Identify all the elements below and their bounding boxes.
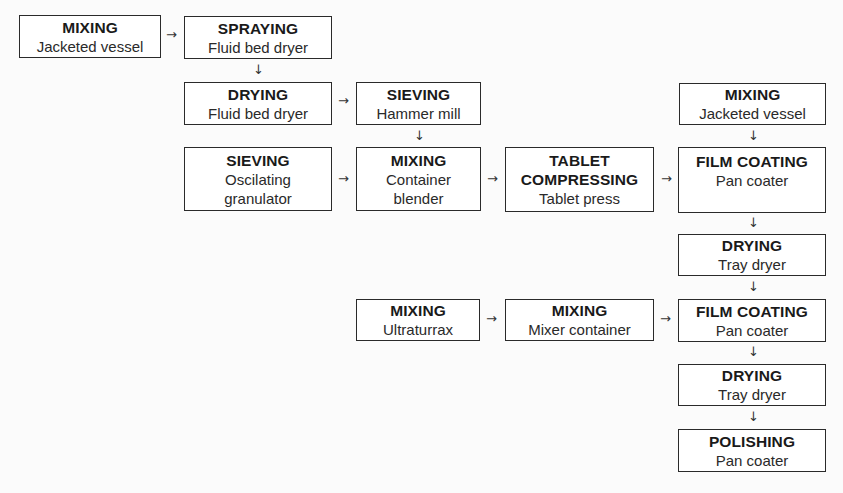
node-title: MIXING <box>62 18 118 37</box>
node-title: DRYING <box>228 85 288 104</box>
node-mixing-ultraturrax: MIXING Ultraturrax <box>356 299 480 341</box>
node-title: POLISHING <box>709 432 795 451</box>
arrow-down-icon: ↓ <box>748 280 759 293</box>
node-mixing-jacketed-vessel-coating: MIXING Jacketed vessel <box>679 83 826 125</box>
node-title: SIEVING <box>226 151 290 170</box>
arrow-right-icon: → <box>661 172 672 185</box>
node-mixing-mixer-container: MIXING Mixer container <box>505 299 654 341</box>
node-equipment: Pan coater <box>716 321 789 340</box>
node-title: MIXING <box>725 85 781 104</box>
arrow-right-icon: → <box>660 312 671 325</box>
node-equipment: Jacketed vessel <box>699 104 806 123</box>
arrow-down-icon: ↓ <box>748 345 759 358</box>
arrow-down-icon: ↓ <box>253 63 264 76</box>
node-equipment: Tray dryer <box>718 385 786 404</box>
node-title: DRYING <box>722 236 782 255</box>
node-sieving-oscilating-granulator: SIEVING Oscilating granulator <box>184 147 332 211</box>
node-equipment-line2: granulator <box>224 189 292 208</box>
arrow-down-icon: ↓ <box>748 129 759 142</box>
node-mixing-jacketed-vessel-start: MIXING Jacketed vessel <box>19 15 161 58</box>
node-equipment: Tablet press <box>539 189 620 208</box>
node-equipment: Pan coater <box>716 171 789 190</box>
node-title: MIXING <box>391 151 447 170</box>
node-equipment: Fluid bed dryer <box>208 104 308 123</box>
node-title: DRYING <box>722 366 782 385</box>
node-title: FILM COATING <box>696 152 808 171</box>
arrow-down-icon: ↓ <box>414 129 425 142</box>
node-spraying-fluid-bed-dryer: SPRAYING Fluid bed dryer <box>184 16 332 59</box>
node-film-coating-1: FILM COATING Pan coater <box>678 147 826 213</box>
node-title: MIXING <box>390 301 446 320</box>
node-equipment: Fluid bed dryer <box>208 38 308 57</box>
node-title-line1: TABLET <box>549 151 610 170</box>
node-equipment: Hammer mill <box>376 104 460 123</box>
node-drying-tray-dryer-1: DRYING Tray dryer <box>678 234 826 276</box>
node-sieving-hammer-mill: SIEVING Hammer mill <box>356 82 481 125</box>
arrow-right-icon: → <box>166 28 177 41</box>
node-title-line2: COMPRESSING <box>521 170 638 189</box>
arrow-right-icon: → <box>487 172 498 185</box>
arrow-right-icon: → <box>338 94 349 107</box>
node-equipment-line1: Oscilating <box>225 170 291 189</box>
node-mixing-container-blender: MIXING Container blender <box>356 147 481 211</box>
arrow-down-icon: ↓ <box>748 216 759 229</box>
node-equipment: Pan coater <box>716 451 789 470</box>
arrow-right-icon: → <box>338 172 349 185</box>
node-drying-tray-dryer-2: DRYING Tray dryer <box>678 364 826 406</box>
node-equipment: Jacketed vessel <box>37 37 144 56</box>
node-title: SIEVING <box>387 85 451 104</box>
node-tablet-compressing: TABLET COMPRESSING Tablet press <box>505 147 654 212</box>
node-equipment: Tray dryer <box>718 255 786 274</box>
node-title: FILM COATING <box>696 302 808 321</box>
node-polishing-pan-coater: POLISHING Pan coater <box>678 429 826 472</box>
node-film-coating-2: FILM COATING Pan coater <box>678 299 826 342</box>
node-equipment-line1: Container <box>386 170 451 189</box>
arrow-right-icon: → <box>486 312 497 325</box>
node-equipment: Ultraturrax <box>383 320 453 339</box>
node-drying-fluid-bed-dryer: DRYING Fluid bed dryer <box>184 82 332 125</box>
node-title: MIXING <box>552 301 608 320</box>
node-equipment-line2: blender <box>393 189 443 208</box>
node-equipment: Mixer container <box>528 320 631 339</box>
node-title: SPRAYING <box>218 19 298 38</box>
arrow-down-icon: ↓ <box>748 410 759 423</box>
